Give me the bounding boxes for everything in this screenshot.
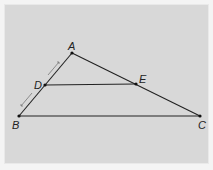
label-b: B: [12, 119, 19, 131]
congruence-mark-db: [21, 93, 32, 106]
point-e: [134, 82, 137, 85]
label-a: A: [67, 40, 75, 52]
point-c: [198, 114, 201, 117]
label-c: C: [198, 119, 206, 131]
congruence-mark-ad: [48, 62, 59, 75]
label-d: D: [34, 79, 42, 91]
point-d: [43, 83, 46, 86]
point-b: [17, 114, 20, 117]
label-e: E: [139, 73, 147, 85]
segment-de: [45, 84, 136, 85]
triangle-diagram: A B C D E: [0, 0, 213, 170]
